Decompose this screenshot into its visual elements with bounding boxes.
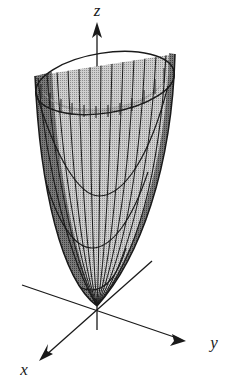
- z-axis-label: z: [93, 1, 101, 20]
- x-axis-label: x: [19, 360, 28, 379]
- paraboloid-figure: z y x: [0, 0, 233, 385]
- x-axis-arrowhead: [39, 344, 53, 361]
- paraboloid-surface: [31, 42, 179, 306]
- paraboloid-svg: z y x: [0, 0, 233, 385]
- y-axis-label: y: [208, 333, 218, 352]
